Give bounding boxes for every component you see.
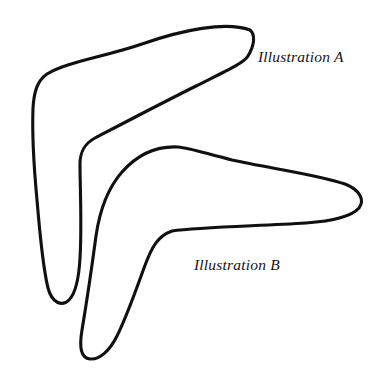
caption-illustration-a: Illustration A — [258, 48, 344, 66]
caption-illustration-b: Illustration B — [194, 256, 280, 274]
illustration-figure: Illustration A Illustration B — [0, 0, 386, 381]
